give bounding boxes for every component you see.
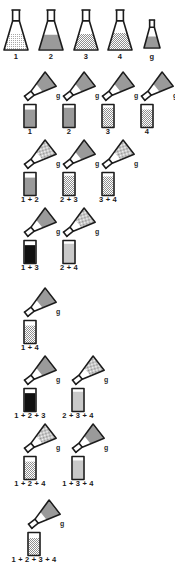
test-tube <box>101 103 115 129</box>
mixture-label: 2 + 4 <box>0 264 157 272</box>
pouring-flask <box>76 356 96 390</box>
pouring-flask <box>67 72 87 106</box>
pouring-flask <box>145 72 165 106</box>
figure-canvas: 1 2 3 4 g g 1 <box>0 0 175 570</box>
stock-flask-label: g <box>65 53 176 61</box>
reagent-label: g <box>104 376 108 383</box>
test-tube <box>62 171 76 197</box>
test-tube <box>23 103 37 129</box>
mixture-label: 1 + 2 + 3 + 4 <box>0 556 122 564</box>
pouring-flask <box>106 140 126 174</box>
pouring-flask <box>28 208 48 242</box>
test-tube <box>101 171 115 197</box>
mixture-label: 4 <box>60 128 176 136</box>
pouring-flask <box>76 424 96 458</box>
test-tube <box>23 455 37 481</box>
reagent-label: g <box>56 444 60 451</box>
reagent-label: g <box>104 444 108 451</box>
test-tube <box>62 239 76 265</box>
pouring-flask <box>106 72 126 106</box>
test-tube <box>71 387 85 413</box>
test-tube <box>71 455 85 481</box>
pouring-flask <box>28 72 48 106</box>
reagent-label: g <box>56 376 60 383</box>
test-tube <box>23 319 37 345</box>
test-tube <box>23 239 37 265</box>
pouring-flask <box>67 208 87 242</box>
pouring-flask <box>28 424 48 458</box>
pouring-flask <box>28 356 48 390</box>
mixture-label: 2 + 3 + 4 <box>0 412 166 420</box>
test-tube <box>23 387 37 413</box>
reagent-label: g <box>56 308 60 315</box>
pouring-flask <box>28 288 48 322</box>
stock-flask-4 <box>107 8 133 51</box>
reagent-label: g <box>173 92 175 99</box>
test-tube <box>23 171 37 197</box>
pouring-flask <box>67 140 87 174</box>
pouring-flask <box>32 500 52 534</box>
reagent-label: g <box>60 520 64 527</box>
test-tube <box>140 103 154 129</box>
stock-flask-1 <box>3 8 29 51</box>
test-tube <box>27 531 41 557</box>
stock-flask-2 <box>38 8 64 51</box>
stock-flask-g <box>143 18 161 49</box>
mixture-label: 1 + 3 + 4 <box>0 480 166 488</box>
reagent-label: g <box>134 160 138 167</box>
reagent-label: g <box>95 228 99 235</box>
stock-flask-3 <box>73 8 99 51</box>
mixture-label: 3 + 4 <box>21 196 176 204</box>
pouring-flask <box>28 140 48 174</box>
test-tube <box>62 103 76 129</box>
mixture-label: 1 + 4 <box>0 344 118 352</box>
